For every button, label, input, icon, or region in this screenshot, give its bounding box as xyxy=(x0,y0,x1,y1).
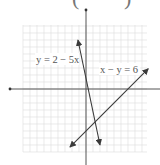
left-paren: ( xyxy=(72,0,79,10)
axes xyxy=(9,9,160,165)
label-line2: x − y = 6 xyxy=(100,64,138,75)
right-paren: ) xyxy=(124,0,131,10)
x-axis-end-dot xyxy=(9,88,12,91)
graph-canvas: ( ) y = 2 − 5x x − y = 6 xyxy=(0,0,160,165)
label-line1: y = 2 − 5x xyxy=(36,54,80,65)
line-x-minus-y-equals-6 xyxy=(70,69,148,147)
line-y-equals-2-minus-5x xyxy=(78,40,100,145)
y-axis-end-dot xyxy=(85,9,88,12)
